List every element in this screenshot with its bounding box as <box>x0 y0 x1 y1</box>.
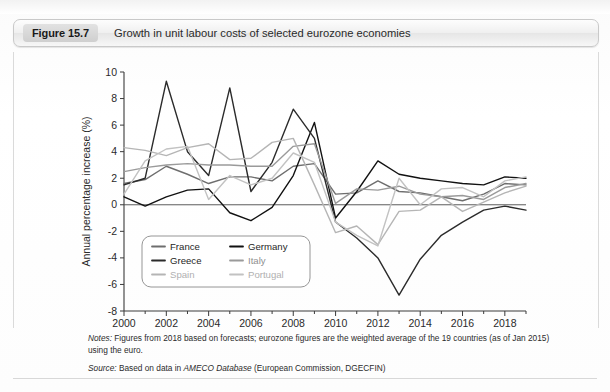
x-axis-tick-label: 2004 <box>197 317 221 328</box>
legend-label-france: France <box>170 241 200 252</box>
notes-line: Notes: Figures from 2018 based on foreca… <box>88 333 558 356</box>
x-axis-tick-label: 2002 <box>155 317 179 328</box>
legend-label-portugal: Portugal <box>248 269 284 280</box>
y-axis-title: Annual percentage increase (%) <box>80 116 92 266</box>
legend-label-germany: Germany <box>248 241 288 252</box>
x-axis-tick-label: 2014 <box>409 317 433 328</box>
x-axis-tick-label: 2018 <box>493 317 517 328</box>
y-axis-tick-label: -4 <box>108 251 117 263</box>
x-axis-tick-label: 2012 <box>366 317 390 328</box>
y-axis-tick-label: 10 <box>105 66 117 78</box>
y-axis-tick-label: 4 <box>111 145 117 157</box>
figure-page: Figure 15.7 Growth in unit labour costs … <box>0 0 610 392</box>
y-axis-tick-label: 2 <box>111 172 117 184</box>
y-axis-tick-label: -8 <box>108 305 117 317</box>
x-axis-tick-label: 2008 <box>282 317 306 328</box>
legend-label-greece: Greece <box>170 255 201 266</box>
legend-label-italy: Italy <box>248 255 266 266</box>
line-chart: 1086420-2-4-6-82000200220042006200820102… <box>14 52 598 328</box>
figure-number-badge: Figure 15.7 <box>23 24 98 42</box>
x-axis-tick-label: 2000 <box>112 317 136 328</box>
source-prefix: Based on data in <box>117 363 184 373</box>
figure-notes: Notes: Figures from 2018 based on foreca… <box>88 333 558 375</box>
source-suffix: (European Commission, DGECFIN) <box>252 363 386 373</box>
y-axis-tick-label: -2 <box>108 225 117 237</box>
page-top-edge <box>0 0 610 14</box>
legend-label-spain: Spain <box>170 269 195 280</box>
chart-legend: FranceGermanyGreeceItalySpainPortugal <box>142 236 310 287</box>
y-axis-tick-label: 8 <box>111 92 117 104</box>
y-axis-tick-label: 6 <box>111 119 117 131</box>
notes-label: Notes: <box>88 333 112 343</box>
x-axis-tick-label: 2006 <box>239 317 263 328</box>
source-database-name: AMECO Database <box>183 363 251 373</box>
notes-text: Figures from 2018 based on forecasts; eu… <box>88 333 549 355</box>
figure-caption-bar: Figure 15.7 Growth in unit labour costs … <box>13 19 599 47</box>
source-line: Source: Based on data in AMECO Database … <box>88 363 558 375</box>
y-axis-tick-label: -6 <box>108 278 117 290</box>
y-axis-tick-label: 0 <box>111 198 117 210</box>
page-bottom-rule <box>13 378 597 379</box>
x-axis-tick-label: 2016 <box>451 317 475 328</box>
source-label: Source: <box>88 363 117 373</box>
figure-title: Growth in unit labour costs of selected … <box>114 27 411 39</box>
chart-container: 1086420-2-4-6-82000200220042006200820102… <box>13 52 599 328</box>
x-axis-tick-label: 2010 <box>324 317 348 328</box>
